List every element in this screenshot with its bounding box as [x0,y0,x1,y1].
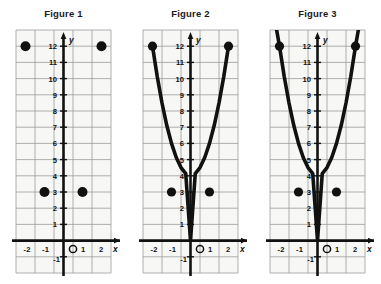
x-axis-arrow-icon [114,238,120,244]
data-point [205,187,214,196]
y-tick-label-10: 10 [49,75,57,84]
y-tick-label-11: 11 [49,58,58,67]
y-tick-label-6: 6 [307,139,311,148]
figure-3-svg: 12 11 10 9 8 7 6 5 4 3 2 1 -1 -2 -1 1 2 … [254,24,381,282]
data-point [351,42,360,51]
y-tick-label-3: 3 [180,188,184,197]
data-point [21,41,31,51]
x-tick-label-2: 2 [99,245,103,254]
y-tick-label-6: 6 [53,139,57,148]
x-tick-label-neg1: -1 [42,245,50,254]
figure-3-plot: 12 11 10 9 8 7 6 5 4 3 2 1 -1 -2 -1 1 2 … [254,24,381,282]
y-tick-label-10: 10 [176,75,184,84]
data-point [78,187,88,197]
x-axis-label: x [239,244,245,254]
x-tick-label-2: 2 [226,245,230,254]
x-axis-arrow-icon [368,238,374,244]
y-tick-label-neg1: -1 [180,255,188,264]
y-tick-label-3: 3 [53,188,57,197]
x-tick-label-neg1: -1 [169,245,177,254]
x-axis-arrow-icon [241,238,247,244]
y-tick-label-12: 12 [303,42,311,51]
y-tick-label-2: 2 [180,204,184,213]
x-axis-label: x [112,244,118,254]
y-tick-label-neg1: -1 [53,255,61,264]
figure-1-plot: 12 11 10 9 8 7 6 5 4 3 2 1 -1 -2 -1 1 2 [0,24,127,282]
y-tick-label-9: 9 [53,91,57,100]
y-tick-label-7: 7 [53,123,57,132]
y-tick-label-12: 12 [176,42,184,51]
y-tick-label-10: 10 [303,75,311,84]
x-tick-label-2: 2 [353,245,357,254]
y-tick-label-11: 11 [303,58,312,67]
y-tick-label-12: 12 [49,42,57,51]
figure-2-svg: 12 11 10 9 8 7 6 5 4 3 2 1 -1 -2 -1 1 2 … [127,24,254,282]
figures-panel: Figure 1 [0,0,381,284]
data-point [167,187,176,196]
data-point [275,42,284,51]
figure-3: Figure 3 [254,0,381,284]
y-tick-label-8: 8 [180,107,184,116]
y-axis-label: y [195,35,201,45]
y-tick-label-9: 9 [180,91,184,100]
figure-1-title: Figure 1 [0,8,127,19]
x-axis-label: x [366,244,372,254]
y-tick-label-11: 11 [176,58,185,67]
y-tick-label-8: 8 [307,107,311,116]
y-axis-label: y [68,35,74,45]
data-point [294,187,303,196]
data-point [40,187,50,197]
y-tick-label-7: 7 [180,123,184,132]
figure-2: Figure 2 [127,0,254,284]
data-point [97,41,107,51]
x-tick-label-neg2: -2 [278,245,285,254]
figure-1-svg: 12 11 10 9 8 7 6 5 4 3 2 1 -1 -2 -1 1 2 [0,24,127,282]
y-tick-label-9: 9 [307,91,311,100]
figure-2-plot: 12 11 10 9 8 7 6 5 4 3 2 1 -1 -2 -1 1 2 … [127,24,254,282]
y-tick-label-3: 3 [307,188,311,197]
figure-1: Figure 1 [0,0,127,284]
data-point [332,187,341,196]
x-tick-label-neg2: -2 [151,245,158,254]
figure-2-title: Figure 2 [127,8,254,19]
y-axis-label: y [322,35,328,45]
y-tick-label-2: 2 [53,204,57,213]
data-point [148,42,157,51]
figure-3-title: Figure 3 [254,8,381,19]
data-point [224,42,233,51]
y-tick-label-7: 7 [307,123,311,132]
x-tick-label-neg2: -2 [24,245,31,254]
y-tick-label-2: 2 [307,204,311,213]
x-tick-label-neg1: -1 [296,245,304,254]
y-tick-label-8: 8 [53,107,57,116]
y-tick-label-neg1: -1 [307,255,315,264]
y-tick-label-6: 6 [180,139,184,148]
